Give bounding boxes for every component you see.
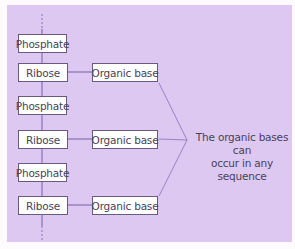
annotation-pointer-2	[159, 139, 187, 140]
ribose-box-3: Ribose	[18, 196, 68, 215]
phosphate-box-3: Phosphate	[18, 163, 67, 182]
sequence-annotation: The organic bases can occur in any seque…	[192, 131, 292, 183]
ribose-box-1: Ribose	[18, 63, 68, 82]
phosphate-box-1: Phosphate	[18, 34, 67, 53]
annotation-line-1: The organic bases can	[192, 131, 292, 157]
ribose-box-2: Ribose	[18, 130, 68, 149]
annotation-line-2: occur in any sequence	[192, 157, 292, 183]
annotation-pointer-3	[159, 140, 187, 196]
organic-base-box-1: Organic base	[92, 63, 158, 82]
annotation-pointer-1	[159, 83, 187, 140]
organic-base-box-2: Organic base	[92, 130, 158, 149]
organic-base-box-3: Organic base	[92, 196, 158, 215]
phosphate-box-2: Phosphate	[18, 96, 67, 115]
